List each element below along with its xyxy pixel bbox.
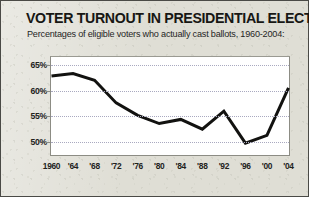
x-axis: 1960'64'68'72'76'80'84'88'92'96'00'04	[1, 161, 309, 177]
turnout-polyline	[52, 74, 289, 144]
plot-area	[50, 56, 290, 156]
y-axis-tick-label: 65%	[31, 60, 47, 70]
x-axis-tick-label: '76	[132, 161, 142, 171]
x-axis-tick-label: '80	[154, 161, 164, 171]
gridline	[51, 116, 289, 117]
y-axis-tick-label: 55%	[31, 111, 47, 121]
x-axis-tick-label: '96	[240, 161, 250, 171]
x-axis-tick-label: '88	[197, 161, 207, 171]
gridline	[51, 142, 289, 143]
gridline	[51, 91, 289, 92]
x-axis-tick-label: '92	[219, 161, 229, 171]
x-axis-tick-label: '84	[176, 161, 186, 171]
x-axis-tick-label: 1960	[43, 161, 60, 171]
chart-subtitle: Percentages of eligible voters who actua…	[27, 29, 284, 39]
y-axis-tick-label: 60%	[31, 86, 47, 96]
chart-figure: VOTER TURNOUT IN PRESIDENTIAL ELECTIONS …	[0, 0, 309, 197]
x-axis-tick-label: '68	[89, 161, 99, 171]
x-axis-tick-label: '64	[68, 161, 78, 171]
chart-title: VOTER TURNOUT IN PRESIDENTIAL ELECTIONS	[26, 10, 309, 26]
gridline	[51, 65, 289, 66]
turnout-line-series	[51, 57, 289, 155]
y-axis-tick-mark	[46, 116, 50, 117]
x-axis-tick-label: '00	[262, 161, 272, 171]
x-axis-tick-label: '72	[111, 161, 121, 171]
y-axis-tick-mark	[46, 91, 50, 92]
y-axis-tick-mark	[46, 65, 50, 66]
y-axis-tick-label: 50%	[31, 137, 47, 147]
x-axis-tick-label: '04	[283, 161, 293, 171]
y-axis-tick-mark	[46, 142, 50, 143]
